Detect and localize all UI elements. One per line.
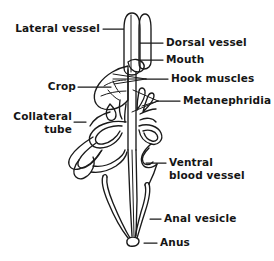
anal-vesicle-right-outer [137,184,150,238]
ventral-vessel-left [128,150,132,236]
caecum-left-2 [119,100,122,119]
label-crop: Crop [0,80,76,93]
anus-opening [127,237,139,246]
coil-right-loop-1b [143,130,158,141]
coil-left-loop-2 [78,143,102,168]
label-collateral-tube: Collateral tube [0,110,72,135]
coil-left-inner [96,126,122,144]
right-intestine-coils [139,118,162,184]
crop-inner-fold-2 [101,91,126,96]
coil-left-upper [90,112,110,126]
label-metanephridia: Metanephridia [183,94,274,107]
caecum-left-3 [125,104,126,122]
anatomy-diagram: Lateral vessel Dorsal vessel Mouth Crop … [0,0,274,261]
coil-right-loop-1 [139,125,162,145]
ventral-vessel-mid [132,150,134,236]
coil-right-upper-cap [140,118,156,122]
anal-vesicle-right-tip [145,183,149,185]
anus-structure [127,237,139,246]
crop-structure [94,66,128,110]
anal-vesicle-left-tip [103,175,107,177]
crop-caeca [106,100,126,122]
anal-vesicles [102,175,150,238]
metanephridia-structures [137,88,156,114]
hook-muscle-fiber-3 [114,79,146,84]
label-anal-vesicle: Anal vesicle [164,212,274,225]
label-dorsal-vessel: Dorsal vessel [166,36,272,49]
crop-outline [94,66,128,110]
metanephridium-3 [140,109,156,114]
label-ventral-blood-vessel: Ventral blood vessel [169,156,274,181]
coil-right-loop-2b [142,148,153,165]
coil-left-tail-inner [93,150,125,166]
ventral-vessel-right [136,150,137,236]
ventral-blood-vessel [128,150,137,236]
label-anus: Anus [160,236,260,249]
label-hook-muscles: Hook muscles [171,72,274,85]
label-lateral-vessel: Lateral vessel [0,22,100,35]
label-mouth: Mouth [166,53,266,66]
